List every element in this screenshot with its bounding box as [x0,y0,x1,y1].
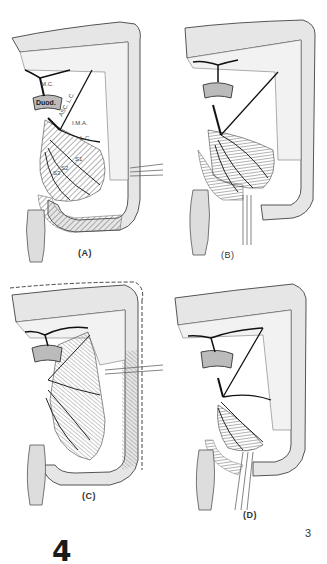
caption-d: (D) [243,510,257,520]
label-mc: M.C. [41,81,54,87]
caption-c: (C) [82,491,96,501]
label-lc: L.C. [80,135,91,141]
label-s1: S1 [75,156,83,162]
label-s2: S2 [61,165,69,171]
colon-diagram-a: M.C. Duod. ASC. L.C. I.M.A. L.C. S1 S2 S… [0,0,163,270]
panel-b [163,0,327,270]
label-ima: I.M.A. [72,120,88,126]
caption-b: (B) [221,250,235,260]
panel-a: M.C. Duod. ASC. L.C. I.M.A. L.C. S1 S2 S… [0,0,163,270]
colon-diagram-c [0,280,163,510]
colon-diagram-b [163,0,327,270]
colon-diagram-d [163,280,327,520]
panel-d [163,280,327,520]
page-number: 3 [305,527,311,539]
panel-c [0,280,163,510]
caption-a: (A) [78,248,92,258]
label-s3: S3 [53,170,61,176]
figure-number: 4 [52,538,71,564]
label-duodenum: Duod. [36,99,56,106]
